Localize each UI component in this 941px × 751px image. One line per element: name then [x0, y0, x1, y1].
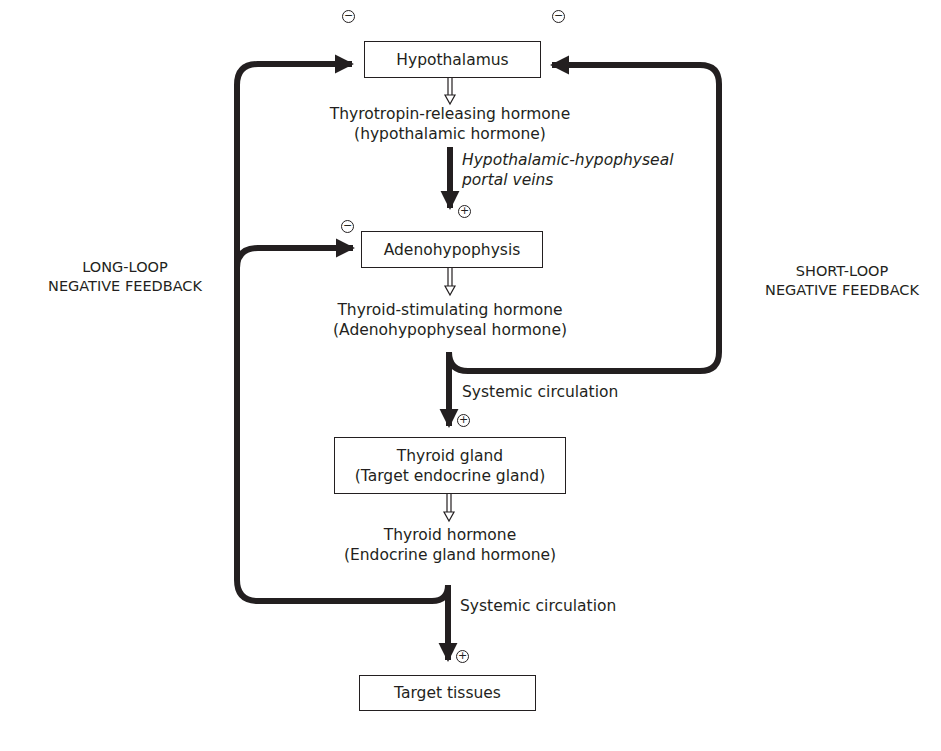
plus-sign-systemic-1: +: [457, 414, 470, 427]
target-tissues-label: Target tissues: [394, 683, 501, 703]
long-loop-label: LONG-LOOP NEGATIVE FEEDBACK: [30, 258, 220, 296]
portal-line1: Hypothalamic-hypophyseal: [462, 150, 673, 170]
adenohypophysis-box: Adenohypophysis: [361, 231, 543, 268]
hypothalamus-box: Hypothalamus: [364, 41, 541, 78]
thyroid-hormone-label: Thyroid hormone (Endocrine gland hormone…: [300, 525, 600, 565]
systemic-circulation-label-2: Systemic circulation: [460, 596, 616, 616]
minus-sign-hypothalamus-right: −: [552, 10, 565, 23]
hollow-arrow-hypothalamus: [445, 78, 455, 104]
long-loop-line2: NEGATIVE FEEDBACK: [30, 277, 220, 296]
short-loop-label: SHORT-LOOP NEGATIVE FEEDBACK: [742, 262, 941, 300]
tsh-label: Thyroid-stimulating hormone (Adenohypoph…: [300, 300, 600, 340]
target-tissues-box: Target tissues: [359, 675, 536, 711]
hypothalamus-label: Hypothalamus: [396, 50, 508, 70]
long-loop-line1: LONG-LOOP: [30, 258, 220, 277]
thyroid-gland-box: Thyroid gland (Target endocrine gland): [334, 437, 566, 494]
thyroid-gland-line2: (Target endocrine gland): [355, 466, 545, 486]
thyroid-hormone-line2: (Endocrine gland hormone): [300, 545, 600, 565]
systemic-circulation-label-1: Systemic circulation: [462, 382, 618, 402]
thyroid-hormone-line1: Thyroid hormone: [300, 525, 600, 545]
plus-sign-portal: +: [458, 205, 471, 218]
trh-line1: Thyrotropin-releasing hormone: [300, 104, 600, 124]
hollow-arrow-adenohypophysis: [445, 268, 455, 295]
portal-veins-label: Hypothalamic-hypophyseal portal veins: [462, 150, 673, 190]
tsh-line1: Thyroid-stimulating hormone: [300, 300, 600, 320]
tsh-line2: (Adenohypophyseal hormone): [300, 320, 600, 340]
long-loop-branch-adenohypophysis: [237, 248, 353, 268]
minus-sign-adenohypophysis: −: [341, 220, 354, 233]
adenohypophysis-label: Adenohypophysis: [384, 240, 521, 260]
short-loop-line2: NEGATIVE FEEDBACK: [742, 281, 941, 300]
thyroid-gland-line1: Thyroid gland: [397, 446, 503, 466]
minus-sign-hypothalamus-left: −: [342, 10, 355, 23]
plus-sign-systemic-2: +: [456, 650, 469, 663]
short-loop-line1: SHORT-LOOP: [742, 262, 941, 281]
trh-label: Thyrotropin-releasing hormone (hypothala…: [300, 104, 600, 144]
portal-line2: portal veins: [462, 170, 673, 190]
trh-line2: (hypothalamic hormone): [300, 124, 600, 144]
hollow-arrow-thyroid-gland: [444, 494, 454, 521]
